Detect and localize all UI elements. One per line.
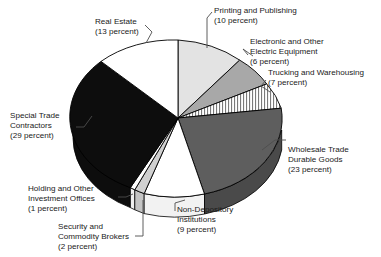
slice-label-line: Contractors bbox=[10, 121, 60, 131]
slice-label-line: Real Estate bbox=[95, 17, 139, 27]
slice-label-trucking-and-warehousing: Trucking and Warehousing (7 percent) bbox=[268, 68, 364, 88]
slice-label-line: Electric Equipment bbox=[250, 47, 324, 57]
slice-label-line: Security and bbox=[58, 222, 129, 232]
slice-label-holding-and-other-investment-offices: Holding and Other Investment Offices (1 … bbox=[28, 184, 95, 215]
side-holding bbox=[130, 188, 134, 210]
slice-label-line: Trucking and Warehousing bbox=[268, 68, 364, 78]
slice-label-line: Commodity Brokers bbox=[58, 232, 129, 242]
slice-label-line: (23 percent) bbox=[288, 165, 349, 175]
slice-label-line: Non-Depository bbox=[177, 205, 233, 215]
slice-label-line: Special Trade bbox=[10, 111, 60, 121]
slice-label-line: Wholesale Trade bbox=[288, 145, 349, 155]
slice-label-electronic-and-other-electric-equipment: Electronic and Other Electric Equipment … bbox=[250, 37, 324, 68]
slice-label-line: Durable Goods bbox=[288, 155, 349, 165]
slice-label-line: Institutions bbox=[177, 215, 233, 225]
slice-label-special-trade-contractors: Special Trade Contractors (29 percent) bbox=[10, 111, 60, 142]
slice-label-line: (1 percent) bbox=[28, 204, 95, 214]
slice-label-line: (10 percent) bbox=[214, 16, 297, 26]
slice-label-real-estate: Real Estate (13 percent) bbox=[95, 17, 139, 37]
leader-line-realestate bbox=[145, 25, 152, 43]
slice-label-line: Printing and Publishing bbox=[214, 6, 297, 16]
slice-label-line: (6 percent) bbox=[250, 57, 324, 67]
slice-label-line: (13 percent) bbox=[95, 27, 139, 37]
slice-label-line: (7 percent) bbox=[268, 78, 364, 88]
slice-label-line: (9 percent) bbox=[177, 225, 233, 235]
leader-line-printing bbox=[207, 12, 212, 48]
slice-label-line: (2 percent) bbox=[58, 242, 129, 252]
pie-chart-page: Printing and Publishing (10 percent) Ele… bbox=[0, 0, 381, 257]
slice-label-line: Holding and Other bbox=[28, 184, 95, 194]
slice-label-wholesale-trade-durable-goods: Wholesale Trade Durable Goods (23 percen… bbox=[288, 145, 349, 176]
slice-label-line: Investment Offices bbox=[28, 194, 95, 204]
slice-label-line: (29 percent) bbox=[10, 131, 60, 141]
slice-label-security-and-commodity-brokers: Security and Commodity Brokers (2 percen… bbox=[58, 222, 129, 253]
slice-label-printing-and-publishing: Printing and Publishing (10 percent) bbox=[214, 6, 297, 26]
slice-label-line: Electronic and Other bbox=[250, 37, 324, 47]
slice-label-non-depository-institutions: Non-Depository Institutions (9 percent) bbox=[177, 205, 233, 236]
